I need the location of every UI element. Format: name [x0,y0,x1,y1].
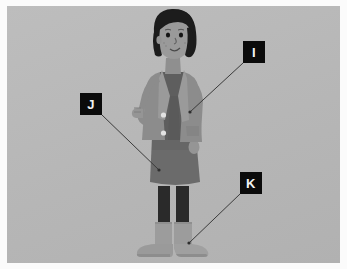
label-box-k[interactable]: K [240,172,262,194]
leader-point-J [157,168,160,171]
label-box-j[interactable]: J [80,93,102,115]
screenshot-root: I J K [0,0,347,269]
leader-point-I [188,110,191,113]
leader-line-J [102,115,159,170]
label-box-i[interactable]: I [243,41,265,63]
leader-line-K [189,194,240,243]
leader-point-K [187,241,190,244]
leader-line-I [190,63,243,112]
annotation-leader-lines [0,0,347,269]
